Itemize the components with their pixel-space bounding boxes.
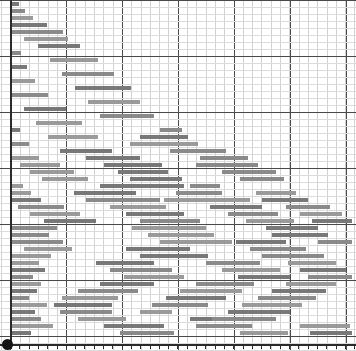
task-bar[interactable] [212,317,276,321]
task-bar[interactable] [240,331,288,335]
task-bar[interactable] [246,219,294,223]
task-bar[interactable] [126,247,190,251]
task-bar[interactable] [110,205,166,209]
task-bar[interactable] [160,128,182,132]
task-bar[interactable] [11,128,20,132]
task-bar[interactable] [130,177,182,181]
task-bar[interactable] [148,233,214,237]
task-bar[interactable] [222,170,276,174]
task-bar[interactable] [42,177,88,181]
task-bar[interactable] [272,289,326,293]
task-bar[interactable] [11,226,57,230]
task-bar[interactable] [300,268,346,272]
task-bar[interactable] [210,205,262,209]
task-bar[interactable] [86,198,160,202]
task-bar[interactable] [86,156,140,160]
task-bar[interactable] [96,261,154,265]
task-bar[interactable] [170,149,226,153]
task-bar[interactable] [240,177,284,181]
task-bar[interactable] [310,331,352,335]
task-bar[interactable] [250,247,306,251]
task-bar[interactable] [50,58,98,62]
task-bar[interactable] [140,219,200,223]
task-bar[interactable] [11,191,31,195]
task-bar[interactable] [12,93,48,97]
task-bar[interactable] [164,198,250,202]
task-bar[interactable] [11,240,63,244]
task-bar[interactable] [262,254,324,258]
task-bar[interactable] [11,296,29,300]
task-bar[interactable] [11,282,41,286]
task-bar[interactable] [190,184,220,188]
task-bar[interactable] [11,65,27,69]
task-bar[interactable] [110,268,172,272]
task-bar[interactable] [11,317,41,321]
task-bar[interactable] [12,23,47,27]
task-bar[interactable] [242,303,302,307]
task-bar[interactable] [300,212,342,216]
task-bar[interactable] [44,219,96,223]
task-bar[interactable] [11,233,49,237]
task-bar[interactable] [124,275,184,279]
task-bar[interactable] [238,275,290,279]
task-bar[interactable] [236,240,286,244]
task-bar[interactable] [20,163,60,167]
task-bar[interactable] [262,198,308,202]
task-bar[interactable] [48,135,98,139]
task-bar[interactable] [222,268,280,272]
task-bar[interactable] [228,310,290,314]
task-bar[interactable] [88,100,140,104]
task-bar[interactable] [11,310,35,314]
task-bar[interactable] [126,212,184,216]
task-bar[interactable] [11,331,31,335]
task-bar[interactable] [11,79,35,83]
task-bar[interactable] [180,289,242,293]
task-bar[interactable] [272,233,328,237]
task-bar[interactable] [11,275,33,279]
task-bar[interactable] [11,16,33,20]
task-bar[interactable] [176,191,222,195]
task-bar[interactable] [120,331,174,335]
task-bar[interactable] [266,226,318,230]
task-bar[interactable] [256,191,296,195]
task-bar[interactable] [11,51,21,55]
task-bar[interactable] [18,205,64,209]
task-bar[interactable] [196,324,252,328]
task-bar[interactable] [288,261,336,265]
task-bar[interactable] [118,170,168,174]
task-bar[interactable] [11,324,53,328]
task-bar[interactable] [152,303,208,307]
task-bar[interactable] [100,114,154,118]
task-bar[interactable] [200,156,248,160]
task-bar[interactable] [140,254,208,258]
task-bar[interactable] [140,310,172,314]
task-bar[interactable] [11,2,19,6]
task-bar[interactable] [11,156,39,160]
task-bar[interactable] [312,219,352,223]
task-bar[interactable] [196,282,254,286]
task-bar[interactable] [11,184,23,188]
task-bar[interactable] [11,9,25,13]
task-bar[interactable] [100,184,184,188]
task-bar[interactable] [286,282,336,286]
task-bar[interactable] [30,170,74,174]
task-bar[interactable] [74,191,136,195]
task-bar[interactable] [286,205,330,209]
task-bar[interactable] [206,261,260,265]
task-bar[interactable] [24,107,66,111]
task-bar[interactable] [196,163,258,167]
task-bar[interactable] [11,261,39,265]
task-bar[interactable] [30,212,80,216]
task-bar[interactable] [60,310,112,314]
task-bar[interactable] [75,86,131,90]
task-bar[interactable] [62,72,114,76]
task-bar[interactable] [258,296,316,300]
task-bar[interactable] [166,296,226,300]
origin-marker-icon[interactable] [2,339,13,350]
task-bar[interactable] [11,303,47,307]
task-bar[interactable] [11,289,37,293]
task-bar[interactable] [38,44,80,48]
task-bar[interactable] [11,268,45,272]
task-bar[interactable] [104,163,162,167]
task-bar[interactable] [132,226,206,230]
